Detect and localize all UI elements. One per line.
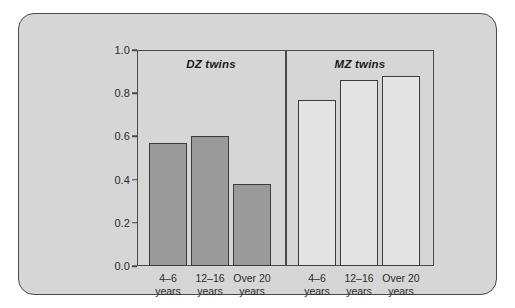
y-axis-label-1.0: 1.0 [114,44,130,56]
y-axis-tick-0.6 [132,136,137,138]
bar-mz-4-6-years[interactable] [298,100,336,266]
x-label-mz-4-6-years: 4–6 years [304,272,330,297]
x-label-dz-4-6-years: 4–6 years [155,272,181,297]
y-axis-label-0.6: 0.6 [114,130,130,142]
y-axis-tick-0.0 [132,265,137,267]
y-axis-label-0.8: 0.8 [114,87,130,99]
x-label-line2: years [344,285,373,298]
bar-mz-over-20-years[interactable] [382,76,420,266]
bar-dz-over-20-years[interactable] [233,184,271,266]
y-axis-label-0.4: 0.4 [114,174,130,186]
x-label-line2: years [233,285,270,298]
bar-dz-12-16-years[interactable] [191,136,229,266]
x-label-mz-over-20-years: Over 20 years [382,272,419,297]
y-axis-tick-0.8 [132,92,137,94]
x-label-line1: 12–16 [195,272,224,284]
x-label-line2: years [382,285,419,298]
y-axis-tick-0.4 [132,179,137,181]
panel-title-dz: DZ twins [186,58,236,70]
y-axis-tick-1.0 [132,49,137,51]
y-axis-label-0.0: 0.0 [114,260,130,272]
x-label-line1: 12–16 [344,272,373,284]
x-label-line1: 4–6 [308,272,326,284]
x-label-line1: Over 20 [233,272,270,284]
x-label-dz-over-20-years: Over 20 years [233,272,270,297]
y-axis-tick-0.2 [132,222,137,224]
bar-dz-4-6-years[interactable] [149,143,187,266]
panel-divider [285,50,287,266]
x-label-line2: years [195,285,224,298]
figure-root: 1.0 0.8 0.6 0.4 0.2 0.0 DZ twins MZ twin… [0,0,515,308]
panel-title-mz: MZ twins [335,58,386,70]
y-axis-label-0.2: 0.2 [114,217,130,229]
plot-area: 1.0 0.8 0.6 0.4 0.2 0.0 DZ twins MZ twin… [137,50,434,266]
x-label-line1: Over 20 [382,272,419,284]
x-label-line1: 4–6 [159,272,177,284]
x-label-line2: years [304,285,330,298]
x-label-line2: years [155,285,181,298]
bar-mz-12-16-years[interactable] [340,80,378,266]
chart-card: 1.0 0.8 0.6 0.4 0.2 0.0 DZ twins MZ twin… [18,13,497,295]
x-label-dz-12-16-years: 12–16 years [195,272,224,297]
x-label-mz-12-16-years: 12–16 years [344,272,373,297]
